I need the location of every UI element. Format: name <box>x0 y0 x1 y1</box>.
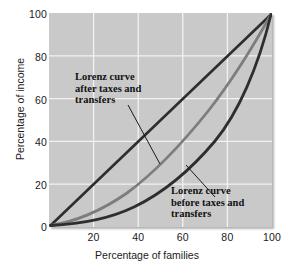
x-axis-ticks: 20 40 60 80 100 <box>0 231 294 247</box>
annotation-after-line-1: Lorenz curve <box>75 71 181 83</box>
annotation-before-line-1: Lorenz curve <box>171 185 283 197</box>
annotation-before-line-3: transfers <box>171 208 283 220</box>
leader-line-after <box>128 105 160 164</box>
x-tick-80: 80 <box>212 231 242 243</box>
x-tick-40: 40 <box>123 231 153 243</box>
lorenz-curve-figure: 100 80 60 40 20 0 20 40 60 80 100 Percen… <box>0 0 294 275</box>
x-tick-20: 20 <box>79 231 109 243</box>
annotation-after-line-2: after taxes and <box>75 83 181 95</box>
x-tick-100: 100 <box>257 231 287 243</box>
x-tick-60: 60 <box>168 231 198 243</box>
annotation-after-taxes: Lorenz curve after taxes and transfers <box>75 71 181 106</box>
annotation-before-line-2: before taxes and <box>171 197 283 209</box>
y-axis-label: Percentage of income <box>14 43 26 175</box>
y-tick-100: 100 <box>19 8 47 20</box>
x-axis-label: Percentage of families <box>0 249 294 261</box>
annotation-before-taxes: Lorenz curve before taxes and transfers <box>171 185 283 220</box>
annotation-after-line-3: transfers <box>75 94 181 106</box>
y-tick-20: 20 <box>19 179 47 191</box>
